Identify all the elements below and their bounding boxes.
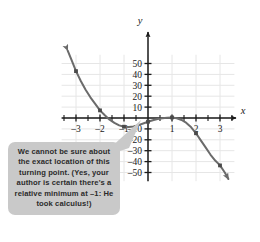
data-point-marker <box>74 69 78 73</box>
y-tick-label: 40 <box>133 70 143 80</box>
data-point-marker <box>218 164 222 168</box>
data-point-marker <box>122 125 126 129</box>
data-point-marker <box>98 108 102 112</box>
callout-box: We cannot be sure about the exact locati… <box>8 142 120 215</box>
polynomial-graph-figure: –3–2–1123–50–40–30–20–101020304050 x y W… <box>0 0 260 242</box>
data-point-marker <box>170 116 174 120</box>
x-tick-label: –3 <box>70 124 81 134</box>
y-tick-label: 20 <box>133 92 143 102</box>
data-point-marker <box>194 131 198 135</box>
data-point-marker <box>146 120 150 124</box>
x-tick-label: 1 <box>170 124 175 134</box>
y-tick-label: –30 <box>127 146 143 156</box>
callout-text: We cannot be sure about the exact locati… <box>12 147 116 209</box>
y-tick-label: 10 <box>133 103 143 113</box>
y-tick-label: 50 <box>133 59 143 69</box>
y-tick-label: 30 <box>133 81 143 91</box>
x-tick-label: –2 <box>94 124 105 134</box>
x-axis-label: x <box>240 105 246 116</box>
y-axis-label: y <box>137 15 143 26</box>
x-tick-label: 3 <box>218 124 223 134</box>
y-tick-label: –40 <box>127 157 143 167</box>
y-tick-label: –20 <box>127 135 143 145</box>
y-tick-label: –50 <box>127 168 143 178</box>
